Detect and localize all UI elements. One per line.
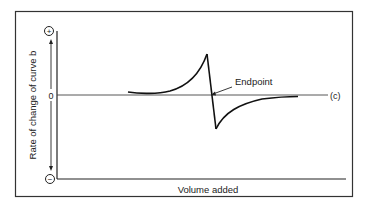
y-axis-label: Rate of change of curve b <box>27 51 38 160</box>
endpoint-annotation: Endpoint <box>211 76 273 96</box>
svg-text:−: − <box>48 175 53 184</box>
plus-marker-icon: + <box>45 27 54 37</box>
arrow-down-icon <box>49 101 53 171</box>
arrow-up-icon <box>49 39 53 89</box>
chart: + − 0 Rate of change of curve b Volume a… <box>0 0 372 215</box>
minus-marker-icon: − <box>46 175 55 185</box>
derivative-curve-recovery <box>216 97 298 130</box>
baseline-label: (c) <box>330 91 341 101</box>
svg-text:Endpoint: Endpoint <box>235 76 273 87</box>
svg-text:+: + <box>47 27 52 36</box>
derivative-curve-rising <box>128 54 207 93</box>
figure-frame <box>16 12 353 197</box>
x-axis-label: Volume added <box>178 184 239 195</box>
zero-label: 0 <box>48 91 53 101</box>
derivative-curve-drop <box>207 54 216 129</box>
